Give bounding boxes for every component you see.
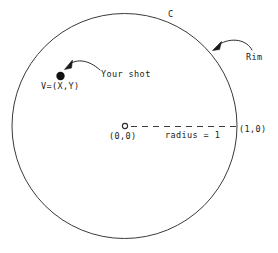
rim-arrow [219, 40, 252, 50]
rim-label: Rim [246, 52, 263, 62]
your-shot-label: Your shot [101, 69, 151, 79]
origin-label: (0,0) [109, 131, 137, 141]
radius-label: radius = 1 [165, 130, 220, 140]
diagram-canvas [0, 0, 278, 253]
shot-point-label: V=(X,Y) [41, 81, 80, 91]
circle-diagram: C Rim Your shot V=(X,Y) (0,0) radius = 1… [0, 0, 278, 253]
rim-point-label: (1,0) [239, 124, 267, 134]
rim-arrowhead [213, 42, 222, 51]
your-shot-arrow [71, 61, 101, 70]
origin-marker [122, 123, 127, 128]
circle-label-c: C [168, 9, 174, 19]
shot-point-marker [56, 72, 64, 80]
your-shot-arrowhead [65, 60, 73, 70]
